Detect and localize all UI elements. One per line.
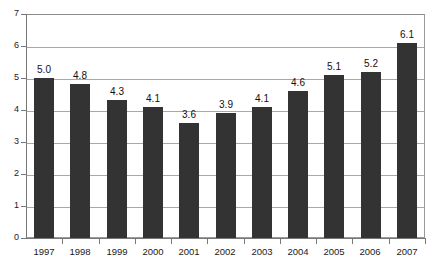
x-axis-category-label: 1997 xyxy=(26,246,62,257)
y-axis-tick-label-text: 4 xyxy=(1,105,19,114)
y-axis-tick-label-text: 3 xyxy=(1,137,19,146)
y-axis-tick xyxy=(21,46,26,47)
x-axis-tick xyxy=(62,239,63,244)
x-axis-line xyxy=(26,238,426,239)
bar xyxy=(397,43,417,238)
bar xyxy=(70,84,90,238)
y-axis-tick-label: 5 xyxy=(0,73,19,83)
bar xyxy=(179,123,199,238)
y-axis-tick xyxy=(21,174,26,175)
x-axis-category-label: 2004 xyxy=(280,246,316,257)
bar-value-label: 5.1 xyxy=(320,61,348,72)
y-axis-tick-label: 6 xyxy=(0,41,19,51)
y-axis-tick-label-text: 0 xyxy=(1,233,19,242)
bar-value-label: 4.1 xyxy=(139,93,167,104)
x-axis-category-label: 2005 xyxy=(316,246,352,257)
x-axis-tick xyxy=(280,239,281,244)
x-axis-tick xyxy=(244,239,245,244)
x-axis-tick xyxy=(425,239,426,244)
y-axis-tick-label-text: 1 xyxy=(1,201,19,210)
x-axis-category-label: 2006 xyxy=(352,246,388,257)
x-axis-category-label: 2001 xyxy=(171,246,207,257)
y-axis-tick-label: 1 xyxy=(0,201,19,211)
bar xyxy=(34,78,54,238)
y-axis-tick-label: 4 xyxy=(0,105,19,115)
bar-value-label: 4.8 xyxy=(66,70,94,81)
bar-value-label: 6.1 xyxy=(393,29,421,40)
bar xyxy=(288,91,308,238)
bar-value-label: 4.3 xyxy=(103,86,131,97)
y-axis-tick xyxy=(21,206,26,207)
x-axis-tick xyxy=(316,239,317,244)
bar xyxy=(216,113,236,238)
bar xyxy=(324,75,344,238)
y-axis-tick-label: 0 xyxy=(0,233,19,243)
gridline xyxy=(27,47,424,48)
y-axis-tick-label: 7 xyxy=(0,9,19,19)
x-axis-tick xyxy=(135,239,136,244)
x-axis-tick xyxy=(99,239,100,244)
x-axis-category-label: 2000 xyxy=(135,246,171,257)
x-axis-tick xyxy=(171,239,172,244)
bar xyxy=(361,72,381,238)
x-axis-category-label: 1998 xyxy=(62,246,98,257)
y-axis-tick xyxy=(21,78,26,79)
x-axis-tick xyxy=(352,239,353,244)
y-axis-tick-label-text: 2 xyxy=(1,169,19,178)
x-axis-category-label: 2003 xyxy=(244,246,280,257)
bar-value-label: 3.6 xyxy=(175,109,203,120)
y-axis-tick-label: 3 xyxy=(0,137,19,147)
bar xyxy=(252,107,272,238)
y-axis-tick xyxy=(21,142,26,143)
x-axis-category-label: 2007 xyxy=(389,246,425,257)
y-axis-tick xyxy=(21,110,26,111)
y-axis-tick-label-text: 7 xyxy=(1,9,19,18)
bar-value-label: 5.0 xyxy=(30,64,58,75)
bar-value-label: 3.9 xyxy=(212,99,240,110)
bar-value-label: 4.1 xyxy=(248,93,276,104)
bar xyxy=(143,107,163,238)
x-axis-category-label: 1999 xyxy=(99,246,135,257)
y-axis-tick-label-text: 6 xyxy=(1,41,19,50)
y-axis-tick-label: 2 xyxy=(0,169,19,179)
x-axis-category-label: 2002 xyxy=(207,246,243,257)
y-axis-tick xyxy=(21,14,26,15)
bar-chart: 01234567 1997199819992000200120022003200… xyxy=(0,0,438,265)
bar xyxy=(107,100,127,238)
bar-value-label: 5.2 xyxy=(357,58,385,69)
x-axis-tick xyxy=(389,239,390,244)
x-axis-tick xyxy=(207,239,208,244)
y-axis-tick-label-text: 5 xyxy=(1,73,19,82)
bar-value-label: 4.6 xyxy=(284,77,312,88)
y-axis-line xyxy=(26,14,27,239)
